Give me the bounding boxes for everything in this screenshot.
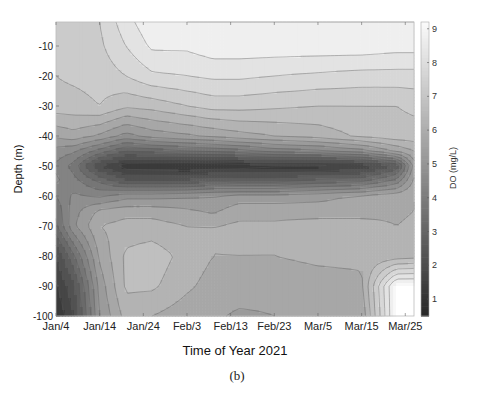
y-tick-label: -70 xyxy=(39,221,54,232)
y-tick-label: -90 xyxy=(39,281,54,292)
x-tick-label: Mar/5 xyxy=(304,320,332,332)
y-axis: -10-20-30-40-50-60-70-80-90-100 xyxy=(33,41,59,322)
colorbar-title: DO (mg/L) xyxy=(448,147,458,189)
x-tick-label: Jan/14 xyxy=(83,320,116,332)
x-tick-label: Feb/23 xyxy=(257,320,291,332)
y-tick-label: -30 xyxy=(39,101,54,112)
y-axis-title: Depth (m) xyxy=(12,145,24,194)
colorbar-tick-label: 2 xyxy=(432,260,437,270)
colorbar: 123456789 xyxy=(421,22,437,317)
contour-chart: Jan/4Jan/14Jan/24Feb/3Feb/13Feb/23Mar/5M… xyxy=(0,0,477,395)
y-tick-label: -20 xyxy=(39,71,54,82)
colorbar-tick-label: 3 xyxy=(432,227,437,237)
x-tick-label: Mar/15 xyxy=(344,320,378,332)
colorbar-tick-label: 7 xyxy=(432,91,437,101)
colorbar-tick-label: 1 xyxy=(432,294,437,304)
y-tick-label: -50 xyxy=(39,161,54,172)
x-tick-label: Jan/24 xyxy=(127,320,160,332)
colorbar-tick-label: 6 xyxy=(432,125,437,135)
y-tick-label: -10 xyxy=(39,41,54,52)
y-tick-label: -100 xyxy=(33,311,53,322)
colorbar-tick-label: 4 xyxy=(432,193,437,203)
x-axis-title: Time of Year 2021 xyxy=(182,343,287,358)
x-tick-label: Mar/25 xyxy=(388,320,422,332)
colorbar-tick-label: 8 xyxy=(432,58,437,68)
x-tick-label: Feb/13 xyxy=(214,320,248,332)
colorbar-tick-label: 9 xyxy=(432,24,437,34)
y-tick-label: -80 xyxy=(39,251,54,262)
figure-caption: (b) xyxy=(229,368,244,383)
y-tick-label: -40 xyxy=(39,131,54,142)
y-tick-label: -60 xyxy=(39,191,54,202)
colorbar-tick-label: 5 xyxy=(432,159,437,169)
x-tick-label: Feb/3 xyxy=(173,320,201,332)
